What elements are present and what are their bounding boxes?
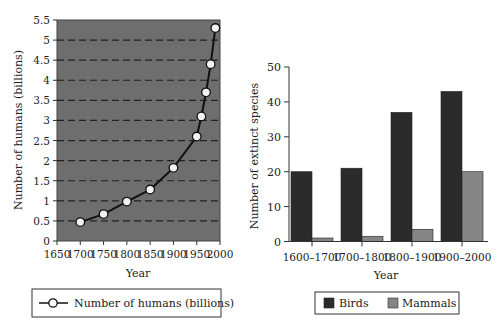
x-tick-label: 2000 [207,248,234,260]
data-point [197,112,206,121]
y-tick-label: 30 [267,131,281,144]
bar-mammals [362,236,383,241]
legend-label-birds: Birds [339,297,369,310]
legend: Number of humans (billions) [32,289,234,317]
bar-birds [391,112,412,241]
y-tick-label: 50 [267,61,281,74]
data-point [211,24,220,33]
x-axis-label: Year [125,267,151,280]
y-tick-label: 3 [43,114,50,126]
plot-area [57,20,220,241]
data-point [76,218,85,227]
y-axis-label: Number of extinct species [248,82,261,229]
legend: Birds Mammals [315,292,459,314]
human-population-chart: 00.511.522.533.544.555.5 165017001750180… [12,14,234,317]
y-tick-label: 0 [274,236,281,249]
y-tick-label: 2 [43,155,50,167]
x-axis-ticks: 16501700175018001850190019502000 [44,241,234,260]
y-axis-ticks: 01020304050 [267,61,289,249]
bar-mammals [312,238,333,241]
bar-birds [441,91,462,241]
data-point [123,197,132,206]
data-point [99,210,108,219]
data-point [146,185,155,194]
y-axis-ticks: 00.511.522.533.544.555.5 [33,14,57,247]
legend-swatch-mammals-icon [388,298,398,308]
y-tick-label: 5.5 [33,14,50,26]
y-tick-label: 0.5 [33,215,50,227]
y-axis-label: Number of humans (billions) [12,50,25,210]
y-tick-label: 2.5 [33,135,50,147]
legend-marker-icon [49,299,57,307]
legend-swatch-birds-icon [324,298,334,308]
legend-label-mammals: Mammals [402,297,457,310]
bar-mammals [462,172,483,242]
x-axis-label: Year [373,269,399,282]
y-tick-label: 40 [267,96,281,109]
bar-birds [291,172,312,242]
x-tick-label: 1900–2000 [433,251,492,263]
y-tick-label: 10 [267,201,281,214]
figure: 00.511.522.533.544.555.5 165017001750180… [0,0,498,333]
data-point [202,88,211,97]
data-point [192,132,201,141]
y-tick-label: 1.5 [33,175,50,187]
y-tick-label: 5 [43,34,50,46]
legend-label: Number of humans (billions) [74,297,234,310]
bar-birds [341,168,362,241]
y-tick-label: 3.5 [33,94,50,106]
y-tick-label: 0 [43,235,50,247]
bars [291,91,483,241]
y-tick-label: 20 [267,166,281,179]
bar-mammals [412,229,433,241]
y-tick-label: 4.5 [33,54,50,66]
data-point [169,164,178,173]
extinct-species-chart: 01020304050 1600–17001700–18001800–19001… [248,61,491,314]
data-point [206,60,215,69]
y-tick-label: 4 [43,74,50,86]
x-axis-ticks: 1600–17001700–18001800–19001900–2000 [283,242,492,263]
y-tick-label: 1 [43,195,50,207]
